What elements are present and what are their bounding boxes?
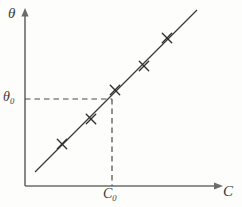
plot-canvas [0, 0, 242, 207]
y-axis-reference-symbol: θ [3, 89, 10, 104]
axes-group [21, 8, 223, 190]
y-axis-arrowhead-icon [21, 8, 28, 17]
x-axis-arrowhead-icon [214, 182, 223, 189]
data-point-marker [162, 33, 171, 42]
y-axis-reference-subscript: 0 [10, 96, 14, 106]
x-axis-reference-label: C0 [103, 187, 117, 202]
reference-lines-group [25, 99, 112, 186]
x-axis-reference-symbol: C [103, 186, 112, 201]
x-axis-title: C [223, 184, 233, 199]
x-axis-reference-subscript: 0 [112, 193, 116, 203]
graph-figure: θ C θ0 C0 [0, 0, 242, 207]
y-axis-title: θ [8, 6, 15, 21]
data-point-marker [110, 85, 119, 94]
data-point-marker [57, 139, 66, 148]
data-points-group [57, 33, 171, 148]
y-axis-reference-label: θ0 [3, 90, 14, 105]
